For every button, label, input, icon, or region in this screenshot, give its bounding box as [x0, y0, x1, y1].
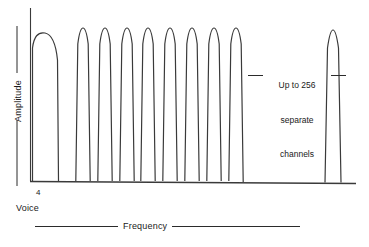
channels-annotation-line-2: separate — [266, 115, 328, 127]
channels-annotation-line-3: channels — [266, 149, 328, 161]
first-channel-tick-label: 4 — [36, 188, 40, 197]
channel-peak-2 — [98, 28, 112, 181]
channel-peak-3 — [120, 28, 134, 181]
channels-annotation: Up to 256 separate channels — [266, 57, 328, 184]
channel-peak-7 — [207, 28, 221, 181]
channel-peak-5 — [163, 28, 177, 181]
y-axis-title: Amplitude — [13, 61, 23, 141]
channel-peak-6 — [185, 28, 199, 181]
voice-label: Voice — [16, 203, 39, 213]
channel-peak-8 — [229, 28, 243, 182]
spectrum-figure: Amplitude Frequency Voice 4 Up to 256 se… — [0, 0, 369, 247]
channel-peak-voice — [33, 33, 59, 181]
x-axis-title: Frequency — [123, 221, 167, 231]
channels-annotation-line-1: Up to 256 — [266, 80, 328, 92]
channel-peak-1 — [76, 28, 90, 181]
channel-peak-4 — [141, 28, 155, 181]
